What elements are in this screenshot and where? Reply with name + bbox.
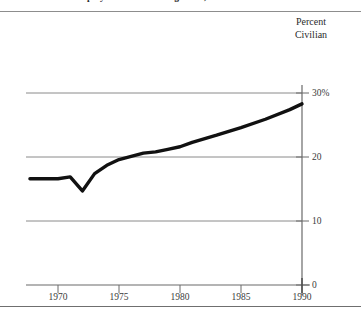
- y-tick-label-30: 30%: [312, 88, 329, 98]
- x-tick-label-1975: 1975: [99, 292, 139, 302]
- y-tick-label-20: 20: [312, 152, 322, 162]
- x-tick-label-1985: 1985: [221, 292, 261, 302]
- x-tick-label-1980: 1980: [160, 292, 200, 302]
- y-tick-label-10: 10: [312, 216, 322, 226]
- footer-divider-rule: [0, 306, 361, 307]
- y-tick-label-0: 0: [312, 280, 317, 290]
- figure: Share of Civilian Employment in Public A…: [0, 0, 361, 318]
- x-tick-label-1970: 1970: [38, 292, 78, 302]
- data-series-line: [30, 104, 302, 191]
- line-chart-plot: [0, 0, 361, 318]
- x-tick-label-1990: 1990: [282, 292, 322, 302]
